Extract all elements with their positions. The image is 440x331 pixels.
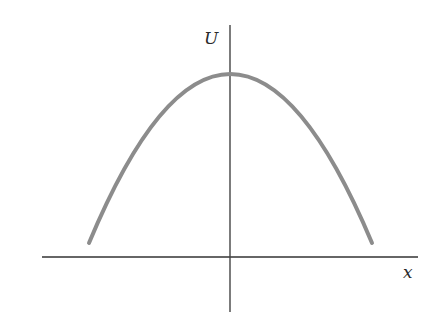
plot-canvas [0, 0, 440, 331]
y-axis-label: U [204, 30, 218, 47]
x-axis-label: x [403, 264, 413, 281]
